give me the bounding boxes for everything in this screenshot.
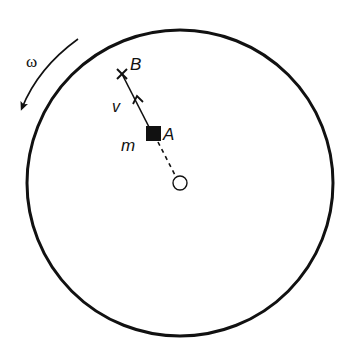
mass-label: m <box>121 136 135 155</box>
center-axis-icon <box>173 176 187 190</box>
point-b-label: B <box>130 55 141 74</box>
velocity-label: v <box>112 98 121 115</box>
radius-dashed-line <box>158 142 176 177</box>
point-a-label: A <box>162 125 174 144</box>
rotation-arrow-icon <box>22 39 78 108</box>
rotating-disk-diagram: ω B v A m <box>0 0 350 355</box>
omega-label: ω <box>26 52 37 71</box>
mass-block <box>146 126 161 141</box>
